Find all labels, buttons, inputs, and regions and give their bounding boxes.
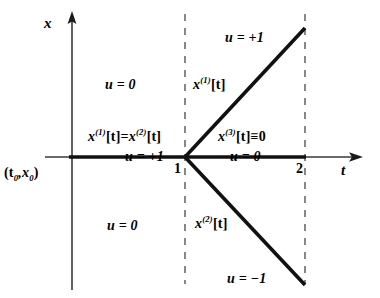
x2-superscript: (2) (136, 127, 147, 137)
comma-x: ,x (18, 165, 29, 180)
u-zero-on-axis-right-label: u = 0 (230, 150, 261, 164)
x2-trajectory-label: x(2)[t] (195, 215, 228, 231)
paren-open: (t (4, 165, 14, 180)
x1-argument: [t] (106, 129, 121, 144)
equals-sign: = (121, 129, 129, 144)
x2-argument: [t] (213, 216, 228, 231)
x1-superscript: (1) (200, 75, 211, 85)
t-axis-label: t (341, 163, 345, 178)
x3-argument: [t] (236, 129, 251, 144)
x2-superscript: (2) (202, 214, 213, 224)
x-axis-label: x (44, 16, 52, 31)
identically-equal-sign: ≡ (251, 129, 259, 144)
switching-curve-figure: x t 1 2 (t0,x0) u = 0 u = +1 u = +1 u = … (0, 0, 380, 298)
x2-base: x (129, 129, 136, 144)
x3-identically-zero-label: x(3)[t]≡0 (218, 128, 266, 144)
tick-label-t1: 1 (174, 162, 181, 176)
zero-value: 0 (259, 129, 266, 144)
u-plus-one-upper-right-label: u = +1 (225, 31, 264, 45)
tick-label-t2: 2 (296, 162, 303, 176)
x2-argument: [t] (147, 129, 162, 144)
initial-condition-label: (t0,x0) (4, 166, 39, 182)
u-zero-upper-left-label: u = 0 (105, 78, 136, 92)
x1-argument: [t] (211, 77, 226, 92)
u-zero-lower-left-label: u = 0 (107, 219, 138, 233)
x3-superscript: (3) (225, 127, 236, 137)
u-minus-one-lower-right-label: u = −1 (227, 272, 266, 286)
vertical-x-axis (68, 11, 77, 290)
x1-superscript: (1) (95, 127, 106, 137)
paren-close: ) (34, 165, 39, 180)
x1-trajectory-label: x(1)[t] (193, 76, 226, 92)
x1-equals-x2-label: x(1)[t]=x(2)[t] (88, 128, 161, 144)
u-plus-one-on-axis-label: u = +1 (125, 150, 164, 164)
